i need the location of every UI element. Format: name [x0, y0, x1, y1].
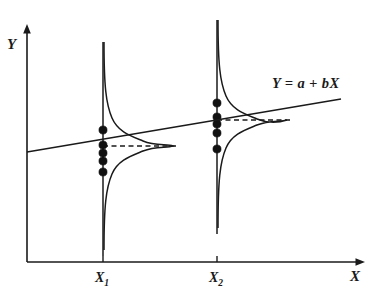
data-point: [99, 126, 107, 134]
data-point: [213, 99, 221, 107]
y-axis-arrowhead: [23, 24, 31, 34]
figure-canvas: [0, 0, 380, 296]
regression-equation-label: Y = a + bX: [272, 75, 340, 92]
y-axis-label: Y: [7, 36, 16, 53]
data-point: [213, 145, 221, 153]
data-point: [99, 168, 107, 176]
x-axis-ticks: [103, 256, 217, 262]
data-point: [213, 129, 221, 137]
x1-tick-label: X1: [95, 270, 109, 288]
regression-line: [27, 99, 341, 152]
x-axis-arrowhead: [356, 258, 366, 266]
data-point: [99, 157, 107, 165]
data-point: [99, 141, 107, 149]
data-point: [213, 120, 221, 128]
x2-tick-label: X2: [209, 270, 223, 288]
normal-curve-x2: [218, 20, 287, 228]
x1-tick-label-subscript: 1: [104, 278, 109, 288]
data-points-x2: [213, 99, 221, 153]
distribution-x2: [213, 20, 291, 234]
distribution-x1: [99, 42, 177, 256]
data-points-x1: [99, 126, 107, 176]
data-point: [99, 149, 107, 157]
x-axis-label: X: [350, 268, 360, 285]
x2-tick-label-subscript: 2: [218, 278, 223, 288]
regression-distribution-figure: Y X X1 X2 Y = a + bX: [0, 0, 380, 296]
x1-tick-label-base: X: [95, 270, 104, 285]
axes-group: [23, 24, 365, 266]
x2-tick-label-base: X: [209, 270, 218, 285]
